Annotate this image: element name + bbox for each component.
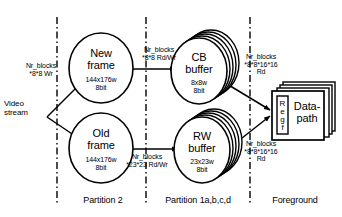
video-stream-label: Video stream (4, 100, 48, 117)
node-datapath-title: Data- path (289, 101, 325, 124)
partition-label-foreground: Foreground (256, 196, 334, 206)
edge-cb-buffer-to-datapath (227, 84, 270, 110)
edge-label-old-frame-to-rw-buffer: Nr_blocks *23*23 Rd/Wr (110, 153, 184, 168)
edge-label-new-frame-to-cb-buffer: Nr_blocks *8*8 Rd/Wr (126, 46, 192, 61)
partition-label-partition1: Partition 1a,b,c,d (150, 196, 246, 206)
node-rw-buffer-title: RW buffer (175, 131, 229, 155)
node-new-frame-title: New frame (71, 48, 131, 72)
diagram-canvas: New frame 144x176w 8bit Old frame 144x17… (0, 0, 342, 217)
partition-label-partition2: Partition 2 (62, 196, 144, 206)
edge-label-input-new-frame: Nr_blocks *8*8 Wr (10, 62, 72, 77)
node-cb-buffer-subtitle: 8x8w 8bit (172, 79, 226, 94)
node-new-frame-subtitle: 144x176w 8bit (71, 76, 131, 91)
node-old-frame-title: Old frame (71, 128, 131, 152)
edge-label-rw-buffer-to-datapath: Nr_blocks *8*8*16*16 Rd (228, 140, 294, 163)
edge-label-cb-buffer-to-datapath: Nr_blocks *8*8*16*16 Rd (228, 53, 294, 76)
node-datapath-regfile-label: R e g f (278, 100, 287, 132)
